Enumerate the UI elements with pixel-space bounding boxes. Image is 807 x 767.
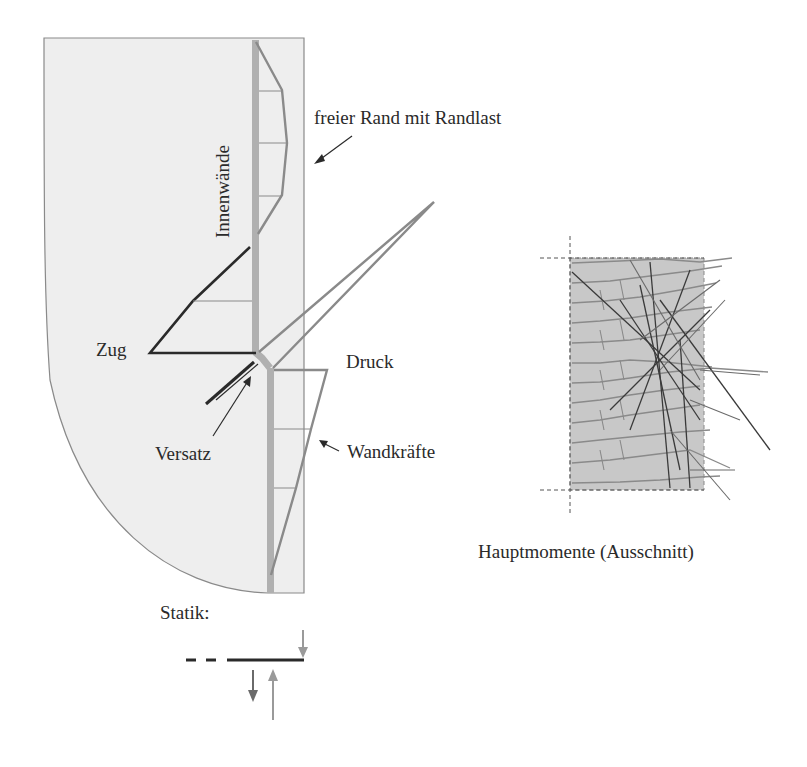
label-statics: Statik: xyxy=(160,603,210,622)
statics-symbol xyxy=(186,630,308,720)
label-tension: Zug xyxy=(96,340,127,359)
inner-wall-lower xyxy=(267,368,274,593)
slab-outline xyxy=(44,38,304,593)
label-principal-moments: Hauptmomente (Ausschnitt) xyxy=(478,542,694,561)
principal-moments-plot xyxy=(540,236,770,515)
label-offset: Versatz xyxy=(155,444,211,463)
label-free-edge: freier Rand mit Randlast xyxy=(314,108,501,127)
label-compression: Druck xyxy=(346,352,393,371)
label-wall-forces: Wandkräfte xyxy=(347,442,435,461)
label-inner-walls: Innenwände xyxy=(213,145,232,238)
inner-wall-upper xyxy=(252,40,259,353)
